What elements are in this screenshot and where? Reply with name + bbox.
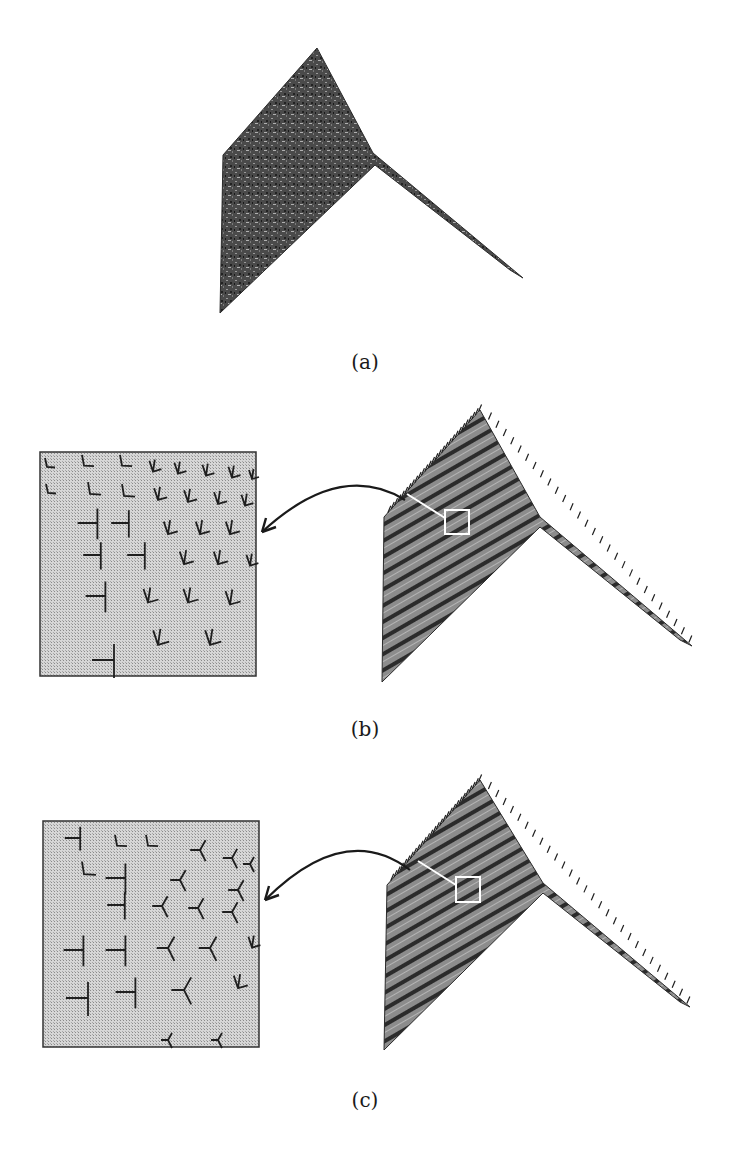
normal-spike: [681, 627, 684, 634]
panel-label-c: (c): [352, 1088, 379, 1112]
inset-c: [43, 821, 260, 1048]
normal-spike: [628, 933, 631, 940]
normal-spike: [547, 846, 550, 853]
normal-spike: [563, 495, 566, 502]
normal-spike: [569, 869, 572, 876]
normal-spike: [607, 545, 610, 552]
normal-spike: [672, 981, 675, 988]
normal-spike: [518, 445, 521, 452]
normal-spike: [511, 437, 514, 444]
normal-spike: [599, 901, 602, 908]
normal-spike: [503, 429, 506, 436]
inset-frame: [43, 821, 259, 1047]
normal-spike: [548, 479, 551, 486]
normal-spike: [526, 454, 529, 461]
normal-spike: [555, 487, 558, 494]
normal-spike: [667, 611, 670, 618]
panel-label-a: (a): [351, 350, 379, 374]
normal-spike: [488, 412, 491, 419]
normal-spike: [659, 602, 662, 609]
normal-spike: [600, 536, 603, 543]
inset-b: [40, 452, 259, 678]
normal-spike: [525, 822, 528, 829]
normal-spike: [652, 594, 655, 601]
normal-spike: [680, 989, 683, 996]
normal-spike: [533, 462, 536, 469]
normal-spike: [629, 569, 632, 576]
normal-spike: [540, 838, 543, 845]
normal-spike: [562, 862, 565, 869]
normal-spike: [585, 520, 588, 527]
normal-spike: [650, 957, 653, 964]
normal-spike: [674, 619, 677, 626]
normal-spike: [657, 965, 660, 972]
normal-spike: [592, 528, 595, 535]
normal-spike: [496, 421, 499, 428]
normal-spike: [622, 561, 625, 568]
surface-plot-c: [384, 780, 690, 1050]
normal-spike: [637, 578, 640, 585]
normal-spike: [613, 917, 616, 924]
normal-spike: [689, 635, 692, 642]
normal-spike: [635, 941, 638, 948]
figure-canvas: [0, 0, 732, 1173]
normal-spike: [621, 925, 624, 932]
normal-spike: [510, 806, 513, 813]
normal-spike: [503, 798, 506, 805]
panel-b: [40, 405, 692, 682]
normal-spike: [578, 512, 581, 519]
normal-spike: [518, 814, 521, 821]
normal-spike: [540, 470, 543, 477]
normal-spike: [570, 503, 573, 510]
normal-spike: [644, 586, 647, 593]
normal-spike: [591, 893, 594, 900]
normal-spike: [577, 877, 580, 884]
normal-spike: [615, 553, 618, 560]
normal-spike: [643, 949, 646, 956]
normal-spike: [606, 909, 609, 916]
normal-spike: [665, 973, 668, 980]
normal-spike: [555, 854, 558, 861]
surface-plot-a: [220, 48, 523, 313]
normal-spike: [496, 790, 499, 797]
panel-a: [220, 48, 523, 313]
normal-spike: [488, 782, 491, 789]
panel-c: [43, 775, 690, 1050]
normal-spike: [533, 830, 536, 837]
normal-spike: [584, 885, 587, 892]
panel-label-b: (b): [351, 717, 379, 741]
inset-frame: [40, 452, 256, 676]
normal-spike: [687, 997, 690, 1004]
surface-plot-b: [382, 410, 692, 682]
